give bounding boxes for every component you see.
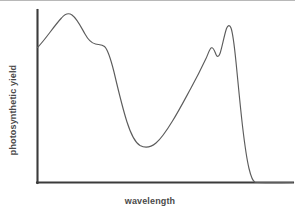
x-axis-label: wavelength bbox=[37, 196, 263, 206]
y-axis-label-text: photosynthetic yield bbox=[8, 65, 18, 156]
photosynthetic-yield-curve bbox=[38, 14, 294, 183]
chart-figure: photosynthetic yield wavelength bbox=[0, 0, 295, 220]
y-axis-label: photosynthetic yield bbox=[0, 0, 26, 220]
plot-area bbox=[0, 0, 295, 220]
